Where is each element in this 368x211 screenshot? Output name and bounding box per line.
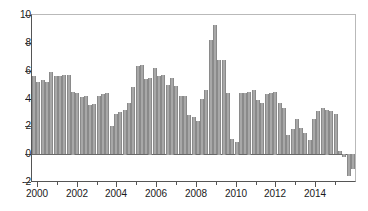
x-tick-minor	[97, 182, 98, 185]
plot-area	[32, 15, 355, 182]
bar	[118, 112, 122, 154]
bar	[316, 111, 320, 154]
x-tick-label: 2014	[298, 188, 332, 199]
x-tick-label: 2002	[60, 188, 94, 199]
bar	[286, 135, 290, 154]
y-tick-label: -2	[7, 177, 31, 187]
bar	[247, 92, 251, 155]
x-tick-minor	[176, 182, 177, 185]
bar	[303, 133, 307, 154]
bar	[92, 104, 96, 154]
bar	[105, 93, 109, 154]
x-tick-label: 2000	[20, 188, 54, 199]
bar	[273, 92, 277, 155]
x-tick-major	[37, 182, 38, 187]
x-tick-minor	[295, 182, 296, 185]
bar	[36, 82, 40, 154]
x-tick-label: 2004	[99, 188, 133, 199]
x-tick-major	[196, 182, 197, 187]
x-tick-major	[156, 182, 157, 187]
bar	[131, 87, 135, 154]
y-axis: 1086420-2	[0, 0, 31, 211]
bar	[230, 139, 234, 154]
x-tick-minor	[136, 182, 137, 185]
bar	[49, 72, 53, 154]
bar	[75, 93, 79, 154]
x-tick-label: 2012	[258, 188, 292, 199]
bar	[351, 154, 355, 169]
bar	[329, 111, 333, 154]
x-tick-major	[315, 182, 316, 187]
x-tick-major	[236, 182, 237, 187]
bar	[217, 60, 221, 155]
x-tick-label: 2008	[179, 188, 213, 199]
bar	[62, 75, 66, 154]
x-tick-label: 2010	[219, 188, 253, 199]
y-tick-label: 0	[7, 149, 31, 159]
chart-title	[0, 0, 368, 3]
bar	[174, 86, 178, 154]
bar	[260, 103, 264, 154]
bar	[148, 78, 152, 155]
bar	[342, 154, 346, 157]
y-tick-label: 2	[7, 121, 31, 131]
y-tick-label: 4	[7, 94, 31, 104]
x-tick-major	[116, 182, 117, 187]
chart-container: 1086420-2 200020022004200620082010201220…	[0, 0, 368, 211]
y-tick-label: 6	[7, 66, 31, 76]
x-tick-minor	[335, 182, 336, 185]
x-tick-minor	[57, 182, 58, 185]
bar	[161, 75, 165, 154]
bar	[187, 115, 191, 154]
x-tick-minor	[216, 182, 217, 185]
y-tick-label: 8	[7, 38, 31, 48]
bar	[334, 114, 338, 154]
bar	[204, 90, 208, 154]
x-tick-minor	[256, 182, 257, 185]
y-tick-label: 10	[7, 10, 31, 20]
x-tick-major	[77, 182, 78, 187]
x-tick-major	[275, 182, 276, 187]
x-tick-label: 2006	[139, 188, 173, 199]
